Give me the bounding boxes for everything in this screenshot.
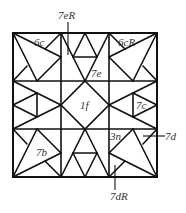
- cell-middle-left: [13, 81, 61, 129]
- label-7b: 7b: [36, 146, 48, 158]
- label-7dR: 7dR: [110, 190, 128, 202]
- label-6c: 6c: [34, 36, 45, 48]
- quilt-block-diagram: 7eR 6c 6cR 7e 1f 7c 3n 7d 7b 7dR: [0, 0, 186, 213]
- label-7e: 7e: [91, 67, 102, 79]
- label-6cR: 6cR: [118, 36, 135, 48]
- cell-middle-right: [109, 81, 157, 129]
- cell-bottom-center: [61, 129, 109, 177]
- label-7d: 7d: [165, 130, 177, 142]
- label-7eR: 7eR: [58, 9, 75, 21]
- label-7c: 7c: [136, 99, 147, 111]
- label-3n: 3n: [109, 130, 122, 142]
- label-1f: 1f: [80, 99, 91, 111]
